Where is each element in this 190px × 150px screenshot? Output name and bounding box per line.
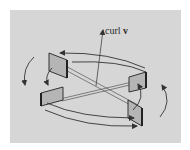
paddle-wheel-diagram xyxy=(0,0,190,150)
paddle-front-right xyxy=(128,100,142,126)
curl-axis-label: curl v xyxy=(105,26,128,36)
paddle-back-right xyxy=(129,72,146,92)
paddle-front-left xyxy=(41,87,63,106)
rotation-arrows xyxy=(24,53,167,126)
paddle-back-left xyxy=(49,53,67,78)
curl-axis-arrow xyxy=(96,30,103,86)
